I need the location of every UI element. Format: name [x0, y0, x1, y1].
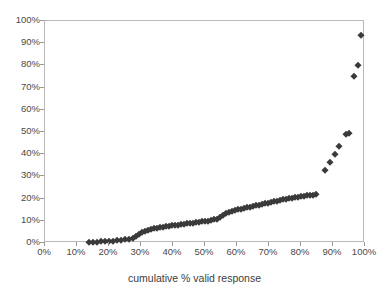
- x-tick-label: 40%: [162, 246, 181, 257]
- data-point-marker: [358, 32, 364, 38]
- x-tick-label: 80%: [290, 246, 309, 257]
- x-tick-mark: [300, 242, 301, 246]
- data-point-marker: [336, 143, 342, 149]
- x-axis-labels: 0%10%20%30%40%50%60%70%80%90%100%: [0, 246, 389, 260]
- plot-area: [45, 21, 363, 241]
- x-tick-mark: [204, 242, 205, 246]
- x-tick-label: 30%: [130, 246, 149, 257]
- x-tick-label: 50%: [194, 246, 213, 257]
- data-point-marker: [327, 159, 333, 165]
- data-point-marker: [355, 61, 361, 67]
- y-tick-mark: [40, 220, 44, 221]
- x-tick-mark: [364, 242, 365, 246]
- y-tick-label: 100%: [16, 15, 40, 25]
- x-tick-mark: [332, 242, 333, 246]
- x-tick-mark: [76, 242, 77, 246]
- data-point-marker: [322, 167, 328, 173]
- x-tick-label: 70%: [258, 246, 277, 257]
- y-tick-label: 70%: [21, 82, 40, 92]
- x-tick-mark: [140, 242, 141, 246]
- x-tick-mark: [44, 242, 45, 246]
- y-tick-mark: [40, 20, 44, 21]
- chart-container: 0%10%20%30%40%50%60%70%80%90%100% 0%10%2…: [0, 0, 389, 301]
- y-tick-label: 30%: [21, 170, 40, 180]
- data-point-marker: [351, 73, 357, 79]
- y-tick-mark: [40, 87, 44, 88]
- y-tick-mark: [40, 175, 44, 176]
- x-tick-label: 60%: [226, 246, 245, 257]
- y-tick-mark: [40, 153, 44, 154]
- x-axis-title: cumulative % valid response: [0, 272, 389, 284]
- y-tick-label: 60%: [21, 104, 40, 114]
- y-tick-mark: [40, 198, 44, 199]
- y-tick-label: 20%: [21, 193, 40, 203]
- y-tick-label: 90%: [21, 37, 40, 47]
- y-tick-label: 10%: [21, 215, 40, 225]
- y-tick-label: 40%: [21, 148, 40, 158]
- y-tick-mark: [40, 109, 44, 110]
- plot-frame: [44, 20, 364, 242]
- x-tick-label: 100%: [352, 246, 376, 257]
- y-tick-mark: [40, 64, 44, 65]
- x-tick-mark: [268, 242, 269, 246]
- x-tick-mark: [108, 242, 109, 246]
- y-tick-mark: [40, 131, 44, 132]
- x-tick-mark: [172, 242, 173, 246]
- data-point-marker: [332, 151, 338, 157]
- x-tick-mark: [236, 242, 237, 246]
- x-tick-label: 20%: [98, 246, 117, 257]
- y-tick-label: 50%: [21, 126, 40, 136]
- y-tick-mark: [40, 42, 44, 43]
- y-tick-label: 80%: [21, 59, 40, 69]
- x-tick-label: 90%: [322, 246, 341, 257]
- x-tick-label: 0%: [37, 246, 51, 257]
- x-tick-label: 10%: [66, 246, 85, 257]
